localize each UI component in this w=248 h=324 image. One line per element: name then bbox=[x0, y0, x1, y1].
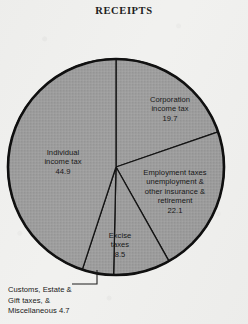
slice-label-employment-line2: unemployment & bbox=[146, 177, 204, 186]
slice-value-corporation: 19.7 bbox=[134, 114, 206, 123]
slice-label-employment: Employment taxes unemployment & other in… bbox=[128, 168, 222, 215]
slice-label-individual-line1: Individual bbox=[47, 148, 80, 157]
slice-label-customs-line2: Gift taxes, & bbox=[8, 296, 50, 305]
slice-value-employment: 22.1 bbox=[128, 206, 222, 215]
slice-label-excise-line1: Excise bbox=[109, 231, 132, 240]
slice-label-individual-line2: income tax bbox=[44, 157, 81, 166]
chart-title: RECEIPTS bbox=[0, 5, 248, 16]
slice-value-individual: 44.9 bbox=[26, 167, 100, 176]
slice-label-corporation: Corporation income tax 19.7 bbox=[134, 95, 206, 123]
slice-label-excise-line2: taxes bbox=[111, 240, 129, 249]
slice-label-employment-line4: retirement bbox=[158, 196, 193, 205]
slice-label-corporation-line1: Corporation bbox=[150, 95, 190, 104]
slice-label-customs-line3: Miscellaneous 4.7 bbox=[8, 306, 70, 315]
slice-value-excise: 8.5 bbox=[101, 250, 139, 259]
slice-label-employment-line3: other insurance & bbox=[145, 187, 205, 196]
slice-label-employment-line1: Employment taxes bbox=[143, 168, 206, 177]
slice-label-customs-line1: Customs, Estate & bbox=[8, 285, 72, 294]
slice-label-individual: Individual income tax 44.9 bbox=[26, 148, 100, 176]
slice-label-customs: Customs, Estate & Gift taxes, & Miscella… bbox=[8, 285, 138, 317]
slice-label-excise: Excise taxes 8.5 bbox=[101, 231, 139, 259]
slice-label-corporation-line2: income tax bbox=[151, 104, 188, 113]
